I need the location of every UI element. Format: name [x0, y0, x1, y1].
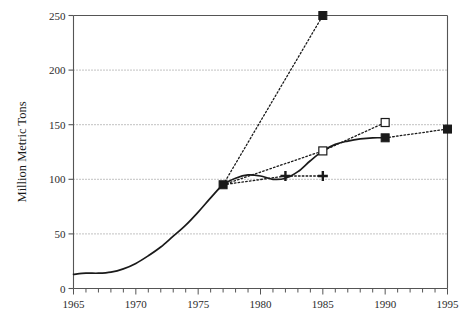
y-tick-label-0: 0 — [60, 283, 66, 295]
marker-1985-medium — [319, 147, 327, 155]
y-tick-label-250: 250 — [49, 10, 66, 22]
y-tick-label-200: 200 — [49, 64, 66, 76]
chart-container: 0501001502002501965197019751980198519901… — [0, 0, 466, 319]
x-tick-label-1995: 1995 — [437, 298, 460, 310]
line-chart: 0501001502002501965197019751980198519901… — [0, 0, 466, 319]
y-axis-title: Million Metric Tons — [15, 101, 29, 202]
x-tick-label-1985: 1985 — [312, 298, 335, 310]
y-tick-label-50: 50 — [55, 228, 67, 240]
x-tick-label-1970: 1970 — [125, 298, 148, 310]
plot-background — [74, 16, 448, 289]
marker-1985-high — [319, 12, 327, 20]
x-tick-label-1980: 1980 — [250, 298, 273, 310]
y-tick-label-100: 100 — [49, 173, 66, 185]
x-tick-label-1990: 1990 — [374, 298, 397, 310]
y-tick-label-150: 150 — [49, 119, 66, 131]
x-tick-label-1975: 1975 — [187, 298, 210, 310]
marker-1977-base — [219, 181, 227, 189]
marker-1990-medium — [381, 119, 389, 127]
marker-1995-actual — [444, 125, 452, 133]
x-tick-label-1965: 1965 — [63, 298, 86, 310]
marker-1990-actual — [381, 134, 389, 142]
